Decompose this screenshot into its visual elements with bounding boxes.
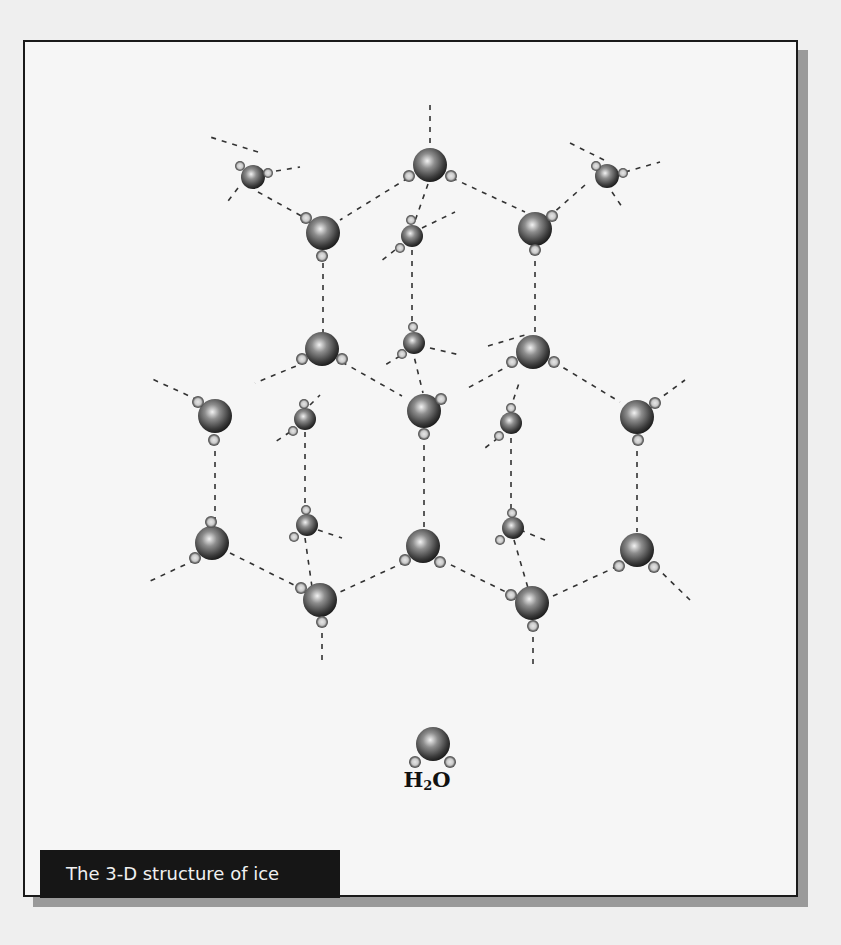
water-molecule: [295, 582, 337, 628]
hydrogen-bond-line: [441, 560, 510, 594]
water-molecule: [495, 508, 524, 545]
oxygen-atom: [403, 332, 425, 354]
oxygen-atom: [406, 529, 440, 563]
hydrogen-atom: [235, 161, 245, 171]
hydrogen-bond-line: [422, 212, 455, 228]
hydrogen-atom: [649, 397, 661, 409]
hydrogen-atom: [205, 516, 217, 528]
hydrogen-atom: [632, 434, 644, 446]
hydrogen-bonds: [148, 105, 690, 668]
hydrogen-bond-line: [514, 540, 528, 588]
hydrogen-bond-line: [225, 188, 238, 205]
hydrogen-atom: [546, 210, 558, 222]
hydrogen-bond-line: [415, 184, 428, 221]
hydrogen-bond-line: [412, 348, 423, 393]
oxygen-atom: [416, 727, 450, 761]
oxygen-atom: [515, 586, 549, 620]
oxygen-atom: [516, 335, 550, 369]
hydrogen-bond-line: [230, 553, 300, 588]
hydrogen-bond-line: [150, 378, 198, 400]
hydrogen-atom: [397, 349, 407, 359]
hydrogen-bond-line: [655, 566, 690, 600]
hydrogen-bond-line: [655, 380, 685, 402]
water-molecule: [506, 335, 560, 369]
hydrogen-atom: [208, 434, 220, 446]
hydrogen-bond-line: [318, 530, 342, 538]
hydrogen-bond-line: [305, 538, 312, 587]
hydrogen-atom: [613, 560, 625, 572]
hydrogen-atom: [648, 561, 660, 573]
hydrogen-atom: [296, 353, 308, 365]
oxygen-atom: [401, 225, 423, 247]
hydrogen-bond-line: [520, 530, 545, 540]
hydrogen-bond-line: [466, 364, 512, 389]
hydrogen-atom: [403, 170, 415, 182]
oxygen-atom: [620, 533, 654, 567]
water-molecule: [189, 516, 229, 564]
hydrogen-atom: [300, 212, 312, 224]
ice-structure-diagram: [0, 0, 841, 945]
water-molecule: [494, 403, 522, 441]
hydrogen-bond-line: [210, 137, 258, 152]
oxygen-atom: [413, 148, 447, 182]
hydrogen-bond-line: [552, 185, 585, 214]
hydrogen-atom: [418, 428, 430, 440]
hydrogen-atom: [506, 356, 518, 368]
hydrogen-atom: [494, 431, 504, 441]
hydrogen-bond-line: [258, 192, 305, 218]
oxygen-atom: [305, 332, 339, 366]
hydrogen-atom: [435, 393, 447, 405]
hydrogen-atom: [408, 322, 418, 332]
hydrogen-atom: [301, 505, 311, 515]
hydrogen-bond-line: [612, 192, 622, 207]
figure-caption: The 3-D structure of ice: [40, 850, 340, 898]
hydrogen-bond-line: [553, 566, 618, 596]
hydrogen-atom: [548, 356, 560, 368]
hydrogen-atom: [495, 535, 505, 545]
hydrogen-atom: [399, 554, 411, 566]
water-molecule: [300, 212, 340, 262]
water-molecule: [505, 586, 549, 632]
hydrogen-atom: [527, 620, 539, 632]
hydrogen-bond-line: [380, 250, 395, 262]
hydrogen-atom: [505, 589, 517, 601]
water-molecule: [403, 148, 457, 182]
water-molecule: [192, 396, 232, 446]
water-molecule: [235, 161, 273, 189]
oxygen-atom: [241, 165, 265, 189]
water-molecule: [397, 322, 425, 359]
water-molecule: [289, 505, 318, 542]
hydrogen-bond-line: [342, 362, 402, 396]
hydrogen-atom: [288, 426, 298, 436]
water-molecule: [620, 397, 661, 446]
water-molecule: [591, 161, 628, 188]
hydrogen-atom: [189, 552, 201, 564]
water-molecule: [613, 533, 660, 573]
hydrogen-atom: [434, 556, 446, 568]
oxygen-atom: [294, 408, 316, 430]
hydrogen-atom: [192, 396, 204, 408]
oxygen-atom: [620, 400, 654, 434]
hydrogen-bond-line: [570, 143, 604, 160]
hydrogen-atom: [295, 582, 307, 594]
oxygen-atom: [502, 517, 524, 539]
water-molecule: [407, 393, 447, 440]
hydrogen-atom: [506, 403, 516, 413]
hydrogen-atom: [618, 168, 628, 178]
hydrogen-bond-line: [452, 178, 525, 212]
oxygen-atom: [303, 583, 337, 617]
hydrogen-bond-line: [276, 167, 300, 171]
oxygen-atom: [296, 514, 318, 536]
oxygen-atom: [500, 412, 522, 434]
hydrogen-bond-line: [340, 178, 408, 220]
caption-shadow: [50, 897, 350, 906]
hydrogen-atom: [591, 161, 601, 171]
hydrogen-atom: [289, 532, 299, 542]
water-molecules: [189, 148, 661, 768]
h2o-label: H2O: [397, 767, 457, 793]
hydrogen-atom: [336, 353, 348, 365]
hydrogen-atom: [299, 399, 309, 409]
water-molecule: [409, 727, 456, 768]
water-molecule: [296, 332, 348, 366]
hydrogen-atom: [507, 508, 517, 518]
